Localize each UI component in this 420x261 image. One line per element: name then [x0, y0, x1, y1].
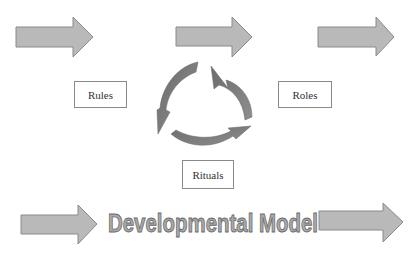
right-arrow-icon	[16, 17, 93, 57]
right-arrow-icon	[318, 17, 394, 56]
rituals-label: Rituals	[192, 169, 223, 181]
right-arrow-icon	[176, 17, 252, 57]
roles-label: Roles	[292, 89, 317, 101]
diagram-canvas: Developmental Model	[0, 0, 420, 261]
right-arrow-icon	[21, 205, 97, 244]
rituals-node: Rituals	[182, 160, 234, 189]
roles-node: Roles	[278, 81, 332, 108]
diagram-title: Developmental Model	[108, 208, 318, 238]
cycle-arrows-icon	[157, 62, 252, 145]
svg-text:Developmental Model: Developmental Model	[108, 208, 318, 238]
rules-label: Rules	[88, 89, 113, 101]
right-arrow-icon	[319, 203, 403, 242]
rules-node: Rules	[74, 81, 127, 108]
